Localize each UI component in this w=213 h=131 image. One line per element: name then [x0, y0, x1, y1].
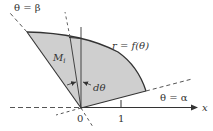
polar-region-diagram: θ = β r = f(θ) Mi dθ 0 1 θ = α x — [0, 0, 213, 131]
ray-theta-alpha-extension — [146, 79, 192, 91]
label-tick-one: 1 — [118, 113, 124, 124]
label-origin: 0 — [77, 113, 83, 124]
label-point-m-main: M — [52, 52, 64, 63]
ray-theta-beta-extension — [10, 13, 27, 32]
label-theta-beta: θ = β — [14, 2, 41, 13]
label-curve: r = f(θ) — [112, 40, 149, 51]
label-point-m-sub: i — [63, 57, 65, 65]
label-x-axis: x — [202, 102, 208, 113]
label-theta-alpha: θ = α — [160, 92, 188, 103]
label-dtheta: dθ — [93, 82, 105, 93]
sector-ray-left-extension — [65, 12, 70, 37]
